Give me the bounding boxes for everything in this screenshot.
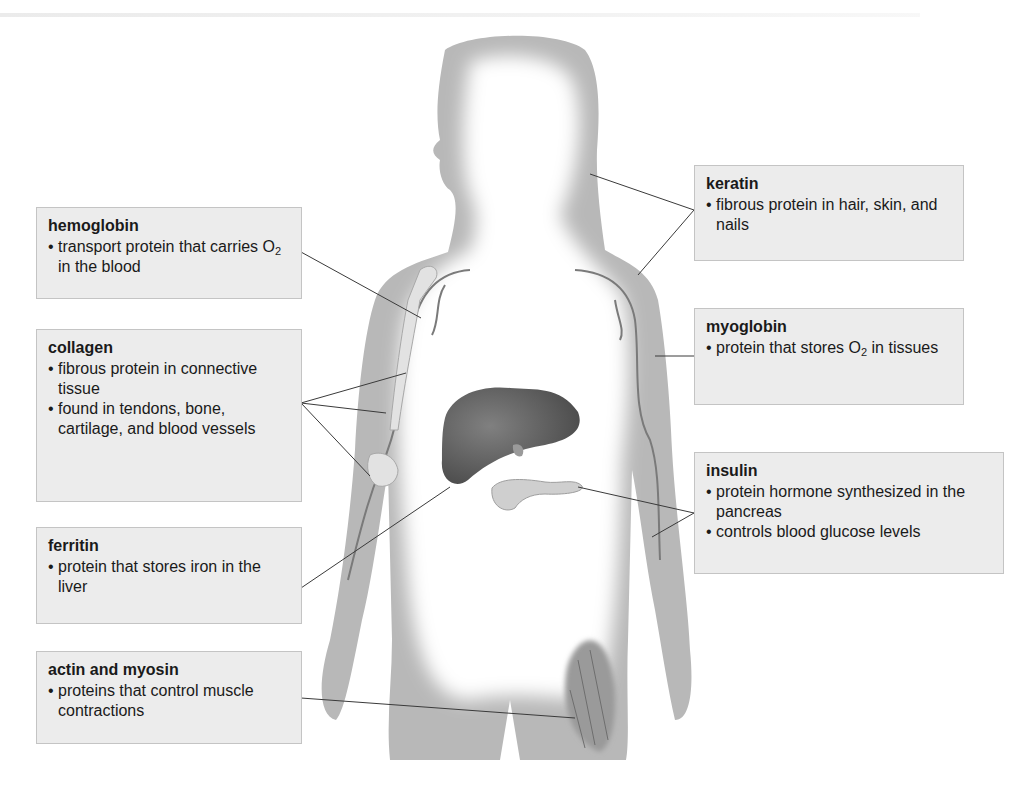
callout-title: myoglobin [706, 317, 953, 336]
callout-bullet: protein that stores iron in the liver [48, 557, 291, 597]
callout-bullet: fibrous protein in hair, skin, and nails [706, 195, 953, 235]
callout-bullet: protein hormone synthesized in the pancr… [706, 482, 993, 522]
callout-hemoglobin: hemoglobin transport protein that carrie… [36, 207, 302, 299]
callout-bullet: protein that stores O2 in tissues [706, 338, 953, 358]
callout-ferritin: ferritin protein that stores iron in the… [36, 527, 302, 624]
callout-title: collagen [48, 338, 291, 357]
callout-title: insulin [706, 461, 993, 480]
callout-bullet: fibrous protein in connective tissue [48, 359, 291, 399]
callout-title: ferritin [48, 536, 291, 555]
callout-bullet: found in tendons, bone, cartilage, and b… [48, 399, 291, 439]
callout-insulin: insulin protein hormone synthesized in t… [694, 452, 1004, 574]
callout-actin-myosin: actin and myosin proteins that control m… [36, 651, 302, 744]
callout-myoglobin: myoglobin protein that stores O2 in tiss… [694, 308, 964, 405]
callout-bullet: proteins that control muscle contraction… [48, 681, 291, 721]
callout-keratin: keratin fibrous protein in hair, skin, a… [694, 165, 964, 261]
callout-title: hemoglobin [48, 216, 291, 235]
callout-title: actin and myosin [48, 660, 291, 679]
callout-bullet: transport protein that carries O2 in the… [48, 237, 291, 277]
callout-collagen: collagen fibrous protein in connective t… [36, 329, 302, 502]
callout-bullet: controls blood glucose levels [706, 522, 993, 542]
callout-title: keratin [706, 174, 953, 193]
